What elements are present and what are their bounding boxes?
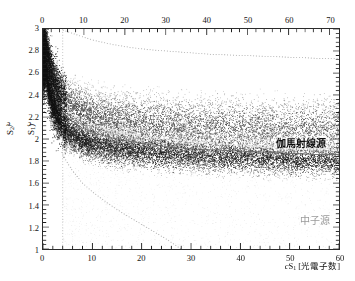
x-tick-label-top: 40 (203, 15, 212, 25)
x-axis-title-text: cS1 [光電子数] (285, 261, 340, 271)
scatter-plot-figure: log10(cS2/cS1) 010203040506070 11.21.41.… (0, 0, 355, 281)
y-tick-label: 2.8 (28, 45, 39, 55)
gamma-source-label: 伽馬射線源 (276, 135, 326, 150)
y-tick-label: 2.6 (28, 67, 39, 77)
y-tick-label: 2.4 (28, 90, 39, 100)
x-axis-title: cS1 [光電子数] (0, 259, 340, 271)
x-tick-label-top: 10 (79, 15, 88, 25)
x-tick-label-top: 30 (161, 15, 170, 25)
neutron-source-label: 中子源 (300, 212, 330, 227)
x-tick-label-top: 60 (285, 15, 294, 25)
x-tick-label-top: 50 (244, 15, 253, 25)
x-tick-label-top: 0 (40, 15, 44, 25)
y-tick-label: 1.4 (28, 201, 39, 211)
y-tick-label: 3 (35, 23, 39, 33)
x-tick-label-top: 70 (326, 15, 335, 25)
y-tick-label: 1.2 (28, 223, 39, 233)
y-tick-label: 1.8 (28, 156, 39, 166)
y-axis-tick-labels: 11.21.41.61.822.22.42.62.83 (16, 28, 39, 250)
x-axis-top-tick-labels: 010203040506070 (42, 15, 340, 27)
y-tick-label: 1 (35, 245, 39, 255)
y-tick-label: 1.6 (28, 178, 39, 188)
y-tick-label: 2 (35, 134, 39, 144)
y-tick-label: 2.2 (28, 112, 39, 122)
plot-area: 伽馬射線源 中子源 閾値 (42, 28, 340, 250)
x-tick-label-top: 20 (120, 15, 129, 25)
